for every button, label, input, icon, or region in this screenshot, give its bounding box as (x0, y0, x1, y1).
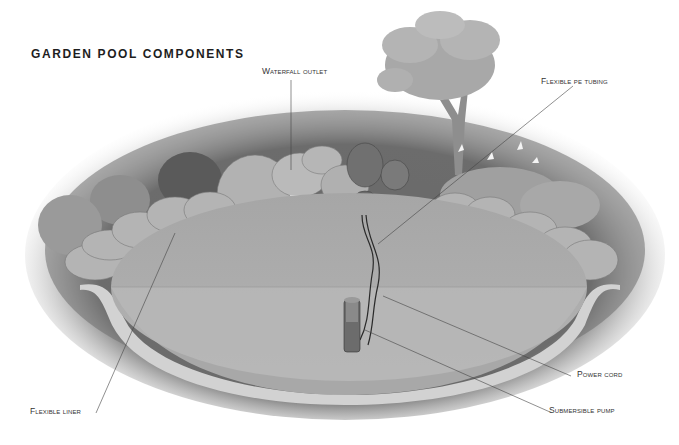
label-submersible-pump: Submersible pump (549, 405, 615, 415)
label-waterfall-outlet: Waterfall outlet (262, 66, 327, 76)
label-flexible-liner: Flexible liner (30, 406, 81, 416)
label-power-cord: Power cord (577, 369, 622, 379)
submersible-pump (344, 297, 360, 352)
diagram-title: GARDEN POOL COMPONENTS (31, 47, 245, 61)
label-flexible-pe-tubing: Flexible pe tubing (541, 76, 608, 86)
